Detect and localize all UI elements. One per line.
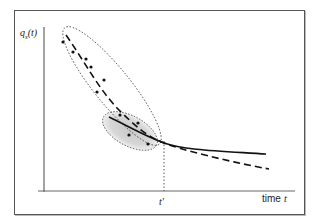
y-axis-label: qs(t) xyxy=(20,27,37,41)
plot-area xyxy=(0,0,321,224)
t-prime-label: t' xyxy=(159,196,164,207)
dashed-fit-curve xyxy=(66,35,269,169)
x-axis-label: timet xyxy=(262,193,287,204)
